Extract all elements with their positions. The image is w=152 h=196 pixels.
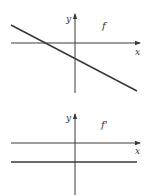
function-label-f: f — [101, 20, 108, 31]
y-axis-label: y — [65, 113, 72, 123]
x-axis-label: x — [135, 47, 140, 57]
function-line-f — [11, 25, 137, 91]
graph-f: y f x — [11, 14, 140, 93]
graph-f-prime: y f' x — [11, 113, 140, 195]
x-axis-label: x — [135, 146, 140, 156]
function-label-f-prime: f' — [100, 119, 107, 130]
diagram-canvas: y f x y f' x — [0, 0, 152, 196]
y-axis-label: y — [65, 14, 72, 24]
